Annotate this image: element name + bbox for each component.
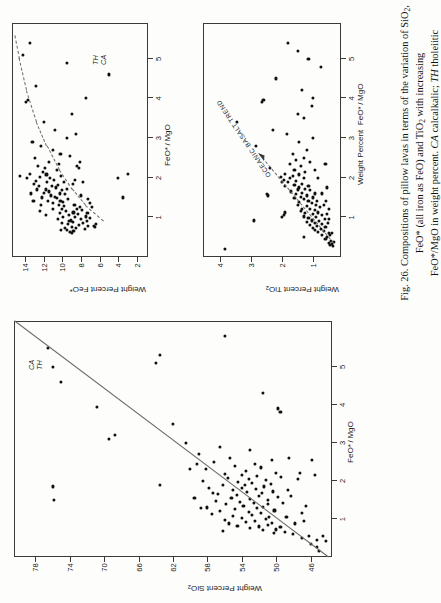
trend-label-feo: TH CA bbox=[92, 55, 107, 65]
x-tick-label: 5 bbox=[338, 364, 347, 368]
y-tick bbox=[173, 557, 174, 562]
x-tick bbox=[148, 177, 153, 178]
axis-title-tio2-x: Weight Percent FeO* / MgO bbox=[356, 83, 365, 185]
y-tick bbox=[282, 257, 283, 262]
y-tick-label: 8 bbox=[76, 263, 85, 283]
y-tick bbox=[137, 257, 138, 262]
y-tick-label: 50 bbox=[272, 563, 281, 583]
y-tick-label: 12 bbox=[39, 263, 48, 283]
x-tick-label: 2 bbox=[338, 479, 347, 483]
figure-caption: Fig. 26. Compositions of pillow lavas in… bbox=[398, 3, 441, 303]
axis-title-feo-y: Weight Percent FeO* bbox=[70, 285, 146, 294]
panel-feo: Weight Percent FeO* FeO* / MgO 123452468… bbox=[0, 3, 195, 303]
caption-line-1: Fig. 26. Compositions of pillow lavas in… bbox=[399, 5, 425, 301]
y-tick bbox=[70, 557, 71, 562]
y-tick bbox=[311, 557, 312, 562]
x-tick bbox=[332, 480, 337, 481]
y-tick bbox=[81, 257, 82, 262]
x-tick bbox=[341, 177, 346, 178]
x-tick-label: 1 bbox=[347, 215, 356, 219]
axis-title-sio2-y: Weight Percent SiO2 bbox=[188, 584, 262, 593]
y-tick bbox=[139, 557, 140, 562]
y-tick-label: 46 bbox=[306, 563, 315, 583]
y-tick-label: 14 bbox=[21, 263, 30, 283]
axis-title-tio2-y: Weight Percent TiO2 bbox=[266, 285, 339, 294]
y-tick bbox=[313, 257, 314, 262]
x-tick bbox=[332, 366, 337, 367]
y-tick-label: 3 bbox=[247, 263, 256, 283]
x-tick bbox=[332, 404, 337, 405]
arrow-icon bbox=[257, 150, 271, 164]
panel-tio2: Weight Percent TiO2 Weight Percent FeO* … bbox=[195, 3, 400, 303]
x-tick bbox=[148, 97, 153, 98]
y-tick bbox=[251, 257, 252, 262]
x-tick bbox=[332, 518, 337, 519]
y-tick-label: 6 bbox=[95, 263, 104, 283]
trend-label-sio2: CA TH bbox=[28, 360, 43, 370]
x-tick-label: 4 bbox=[154, 96, 163, 100]
y-tick bbox=[276, 557, 277, 562]
x-tick bbox=[341, 137, 346, 138]
x-tick-label: 5 bbox=[154, 56, 163, 60]
x-tick bbox=[148, 137, 153, 138]
trend-label-feo-ca: CA bbox=[100, 55, 108, 65]
y-tick bbox=[35, 557, 36, 562]
y-tick-label: 1 bbox=[309, 263, 318, 283]
y-tick-label: 54 bbox=[237, 563, 246, 583]
x-tick bbox=[332, 442, 337, 443]
x-tick-label: 3 bbox=[347, 136, 356, 140]
x-tick-label: 4 bbox=[338, 403, 347, 407]
y-tick bbox=[25, 257, 26, 262]
x-tick-label: 1 bbox=[154, 215, 163, 219]
y-tick-label: 58 bbox=[203, 563, 212, 583]
y-tick bbox=[100, 257, 101, 262]
trend-label-sio2-th: TH bbox=[36, 360, 44, 370]
panel-sio2: Weight Percent SiO2 FeO* / MgO 123454650… bbox=[0, 303, 380, 603]
axis-title-sio2-x: FeO* / MgO bbox=[346, 421, 355, 463]
x-tick-label: 2 bbox=[154, 175, 163, 179]
y-tick-label: 10 bbox=[58, 263, 67, 283]
y-tick-label: 4 bbox=[114, 263, 123, 283]
y-tick-label: 66 bbox=[134, 563, 143, 583]
caption-line-2: FeO*/MgO in weight percent. CA calcalkal… bbox=[428, 3, 441, 303]
x-tick-label: 3 bbox=[338, 441, 347, 445]
y-tick bbox=[207, 557, 208, 562]
y-tick-label: 78 bbox=[31, 563, 40, 583]
x-tick-label: 2 bbox=[347, 175, 356, 179]
x-tick-label: 5 bbox=[347, 56, 356, 60]
x-tick bbox=[341, 58, 346, 59]
x-tick bbox=[341, 216, 346, 217]
y-tick bbox=[44, 257, 45, 262]
x-tick bbox=[148, 216, 153, 217]
y-tick-label: 4 bbox=[216, 263, 225, 283]
x-tick bbox=[148, 58, 153, 59]
x-tick-label: 3 bbox=[154, 136, 163, 140]
y-tick bbox=[104, 557, 105, 562]
y-tick bbox=[118, 257, 119, 262]
y-tick-label: 62 bbox=[169, 563, 178, 583]
x-tick bbox=[341, 97, 346, 98]
y-tick-label: 2 bbox=[132, 263, 141, 283]
x-tick-label: 4 bbox=[347, 96, 356, 100]
y-tick-label: 74 bbox=[65, 563, 74, 583]
y-tick-label: 70 bbox=[100, 563, 109, 583]
y-tick bbox=[220, 257, 221, 262]
y-tick bbox=[242, 557, 243, 562]
y-tick bbox=[62, 257, 63, 262]
axis-title-feo-x: FeO* / MgO bbox=[163, 124, 172, 166]
figure-landscape: Weight Percent SiO2 FeO* / MgO 123454650… bbox=[0, 0, 441, 603]
x-tick-label: 1 bbox=[338, 517, 347, 521]
figure-page: Weight Percent SiO2 FeO* / MgO 123454650… bbox=[0, 0, 441, 603]
y-tick-label: 2 bbox=[278, 263, 287, 283]
